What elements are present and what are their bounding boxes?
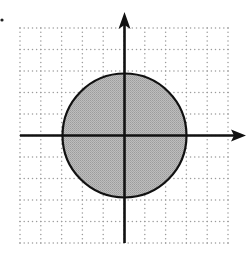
coordinate-figure (0, 0, 249, 254)
marker-dot (0, 18, 3, 21)
